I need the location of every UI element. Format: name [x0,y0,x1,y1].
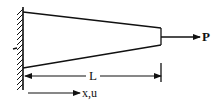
wall-mark [13,48,17,49]
diagram-canvas: P L x,u [0,0,218,101]
axis-label: x,u [82,87,97,99]
fixed-wall-support [13,7,23,90]
force-label: P [202,30,210,43]
length-label: L [86,69,100,82]
diagram-svg [0,0,218,101]
tapered-bar [23,12,161,68]
